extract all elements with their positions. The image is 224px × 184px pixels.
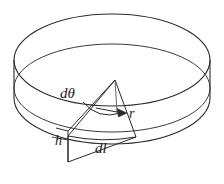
label-radius-r: r: [129, 107, 134, 121]
label-height-h: h: [55, 134, 62, 148]
figure-container: dθ r h dl: [0, 0, 224, 184]
cylinder-diagram-svg: [0, 0, 224, 184]
label-d-theta: dθ: [60, 86, 75, 101]
inner-ellipse: [14, 44, 210, 132]
bottom-front-arc: [14, 98, 210, 144]
wedge-side-top-edge: [56, 128, 68, 131]
top-rim-ellipse: [14, 14, 210, 106]
label-arc-dl: dl: [95, 141, 107, 156]
sector-left-leg: [68, 80, 115, 136]
